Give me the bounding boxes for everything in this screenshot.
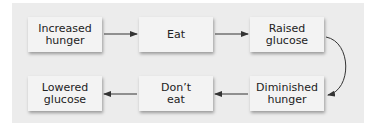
- arrow-n3-n4: [326, 37, 346, 95]
- arrows-layer: [0, 0, 377, 132]
